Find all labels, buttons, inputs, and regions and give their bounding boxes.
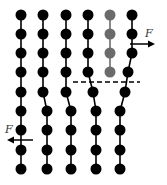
force-label-left: F xyxy=(4,123,13,136)
dislocation-diagram: F F xyxy=(0,0,167,185)
force-arrow-left-icon xyxy=(7,137,33,144)
force-label-right: F xyxy=(144,27,153,40)
atoms xyxy=(16,10,138,175)
force-arrow-right-icon xyxy=(130,41,155,48)
